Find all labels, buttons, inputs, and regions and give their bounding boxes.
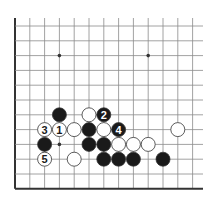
stone-disc bbox=[82, 123, 96, 137]
white-stone bbox=[126, 137, 140, 151]
go-board: 23145 bbox=[0, 0, 218, 201]
white-stone bbox=[112, 137, 126, 151]
white-stone-5: 5 bbox=[38, 152, 52, 166]
stone-disc bbox=[112, 152, 126, 166]
stone-disc bbox=[97, 152, 111, 166]
black-stone-4: 4 bbox=[112, 123, 126, 137]
star-point bbox=[58, 54, 62, 58]
black-stone bbox=[112, 152, 126, 166]
stone-disc bbox=[126, 152, 140, 166]
stone-disc bbox=[52, 108, 66, 122]
stone-disc bbox=[97, 137, 111, 151]
black-stone bbox=[126, 152, 140, 166]
stone-disc bbox=[171, 123, 185, 137]
black-stone bbox=[97, 137, 111, 151]
move-number-label: 5 bbox=[42, 153, 48, 165]
white-stone bbox=[67, 152, 81, 166]
white-stone-1: 1 bbox=[52, 123, 66, 137]
black-stone bbox=[52, 108, 66, 122]
stone-disc bbox=[38, 137, 52, 151]
star-point bbox=[146, 54, 150, 58]
black-stone bbox=[82, 137, 96, 151]
white-stone-3: 3 bbox=[38, 123, 52, 137]
stone-disc bbox=[112, 137, 126, 151]
white-stone bbox=[67, 123, 81, 137]
star-point bbox=[58, 143, 62, 147]
white-stone bbox=[171, 123, 185, 137]
white-stone bbox=[97, 123, 111, 137]
stone-disc bbox=[67, 152, 81, 166]
move-number-label: 2 bbox=[101, 109, 107, 121]
black-stone bbox=[97, 152, 111, 166]
black-stone-2: 2 bbox=[97, 108, 111, 122]
stone-disc bbox=[97, 123, 111, 137]
white-stone bbox=[141, 137, 155, 151]
black-stone bbox=[82, 123, 96, 137]
stone-disc bbox=[126, 137, 140, 151]
stone-disc bbox=[82, 108, 96, 122]
black-stone bbox=[156, 152, 170, 166]
move-number-label: 1 bbox=[56, 124, 62, 136]
black-stone bbox=[38, 137, 52, 151]
stone-disc bbox=[156, 152, 170, 166]
stone-disc bbox=[141, 137, 155, 151]
stone-disc bbox=[82, 137, 96, 151]
move-number-label: 3 bbox=[42, 124, 48, 136]
stone-disc bbox=[67, 123, 81, 137]
move-number-label: 4 bbox=[116, 124, 123, 136]
white-stone bbox=[82, 108, 96, 122]
